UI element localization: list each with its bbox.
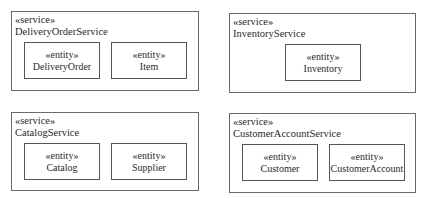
service-stereotype: «service» [233, 16, 305, 28]
entity-name: Catalog [46, 162, 77, 174]
service-catalog: «service» CatalogService «entity» Catalo… [11, 112, 199, 191]
service-header: «service» CatalogService [15, 115, 79, 139]
entity-stereotype: «entity» [264, 151, 297, 163]
entity-stereotype: «entity» [351, 151, 384, 163]
service-name: CatalogService [15, 127, 79, 139]
service-header: «service» InventoryService [233, 16, 305, 40]
service-header: «service» DeliveryOrderService [15, 14, 108, 38]
service-inventory: «service» InventoryService «entity» Inve… [229, 13, 416, 93]
entity-stereotype: «entity» [46, 49, 79, 61]
service-delivery-order: «service» DeliveryOrderService «entity» … [11, 11, 199, 91]
entity-name: Item [140, 61, 158, 73]
entity-item: «entity» Item [111, 42, 187, 79]
service-stereotype: «service» [233, 116, 341, 128]
entity-stereotype: «entity» [133, 150, 166, 162]
entity-stereotype: «entity» [46, 150, 79, 162]
entity-stereotype: «entity» [307, 51, 340, 63]
entity-stereotype: «entity» [133, 49, 166, 61]
entity-name: Supplier [132, 162, 166, 174]
service-name: DeliveryOrderService [15, 26, 108, 38]
entity-customer: «entity» Customer [242, 144, 318, 181]
entity-supplier: «entity» Supplier [111, 143, 187, 180]
service-header: «service» CustomerAccountService [233, 116, 341, 140]
service-stereotype: «service» [15, 14, 108, 26]
entity-inventory: «entity» Inventory [285, 44, 361, 81]
service-name: InventoryService [233, 28, 305, 40]
service-customer-account: «service» CustomerAccountService «entity… [229, 113, 416, 193]
service-stereotype: «service» [15, 115, 79, 127]
entity-name: Customer [261, 163, 300, 175]
service-name: CustomerAccountService [233, 128, 341, 140]
entity-delivery-order: «entity» DeliveryOrder [24, 42, 100, 79]
entity-name: CustomerAccount [331, 163, 404, 175]
entity-catalog: «entity» Catalog [24, 143, 100, 180]
entity-customer-account: «entity» CustomerAccount [329, 144, 405, 181]
entity-name: DeliveryOrder [33, 61, 91, 73]
entity-name: Inventory [304, 63, 343, 75]
